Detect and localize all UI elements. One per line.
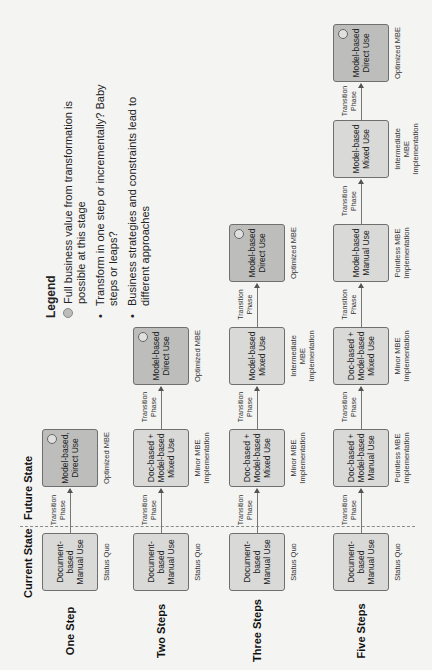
transition-phase-label: Transition Phase	[237, 490, 254, 530]
state-box-label: Document-based Manual Use	[146, 536, 176, 588]
state-box-label: Model-based Direct Use	[151, 330, 171, 382]
state-caption: Intermediate MBE Implementation	[393, 120, 420, 178]
state-box: Model-based Direct Use	[133, 327, 189, 385]
bullet-icon: •	[126, 306, 152, 318]
state-box-label: Model-based Mixed Use	[247, 330, 267, 382]
state-box: Doc-based + Model-based Mixed Use	[229, 429, 285, 487]
legend-full-value-text: Full business value from transformation …	[62, 58, 88, 304]
state-box: Model-based, Direct Use	[42, 429, 98, 487]
row-label: Two Steps	[155, 600, 167, 662]
transition-arrow	[161, 489, 162, 533]
transition-phase-label: Transition Phase	[141, 490, 158, 530]
state-caption: Optimized MBE	[393, 24, 402, 82]
state-box-label: Doc-based + Model-based Manual Use	[346, 432, 376, 484]
mbe-transformation-diagram: Current State Future State Legend Full b…	[0, 0, 432, 670]
transition-arrow	[361, 84, 362, 120]
state-box: Model-based Direct Use	[229, 224, 285, 282]
state-box-label: Model-based Direct Use	[351, 27, 371, 79]
state-box: Document-based Manual Use	[333, 533, 389, 591]
state-box-label: Model-based Direct Use	[247, 227, 267, 279]
state-caption: Status Quo	[289, 533, 298, 591]
state-caption: Pointless MBE Implementation	[393, 224, 411, 282]
transition-arrow	[361, 387, 362, 429]
state-box: Model-based Manual Use	[333, 224, 389, 282]
state-box-label: Doc-based + Model-based Mixed Use	[242, 432, 272, 484]
state-box: Document-based Manual Use	[133, 533, 189, 591]
transition-arrow	[361, 489, 362, 533]
full-value-circle-icon	[338, 29, 348, 39]
transition-arrow	[361, 180, 362, 224]
full-value-circle-icon	[63, 308, 73, 318]
state-caption: Optimized MBE	[193, 327, 202, 385]
state-box-label: Document-based Manual Use	[55, 536, 85, 588]
state-box: Document-based Manual Use	[42, 533, 98, 591]
transition-phase-label: Transition Phase	[341, 285, 358, 325]
transition-arrow	[161, 387, 162, 429]
state-box-label: Document-based Manual Use	[242, 536, 272, 588]
transition-phase-label: Transition Phase	[341, 490, 358, 530]
full-value-circle-icon	[138, 332, 148, 342]
state-box: Model-based Mixed Use	[229, 327, 285, 385]
legend: Legend Full business value from transfor…	[44, 58, 158, 318]
legend-bullet-item: • Business strategies and constraints le…	[126, 58, 152, 318]
transition-phase-label: Transition Phase	[141, 387, 158, 427]
state-box-label: Doc-based + Model-based Mixed Use	[346, 330, 376, 382]
row-label: One Step	[64, 600, 76, 662]
bullet-icon: •	[94, 306, 120, 318]
state-caption: Minor MBE Implementation	[193, 429, 211, 487]
state-caption: Status Quo	[393, 533, 402, 591]
transition-arrow	[361, 284, 362, 327]
legend-title: Legend	[44, 58, 58, 318]
state-box: Doc-based + Model-based Mixed Use	[133, 429, 189, 487]
state-box: Doc-based + Model-based Manual Use	[333, 429, 389, 487]
full-value-circle-icon	[234, 229, 244, 239]
state-caption: Optimized MBE	[289, 224, 298, 282]
state-caption: Minor MBE Implementation	[289, 429, 307, 487]
header-future-state: Future State	[22, 456, 34, 520]
transition-phase-label: Transition Phase	[237, 285, 254, 325]
transition-phase-label: Transition Phase	[237, 387, 254, 427]
transition-phase-label: Transition Phase	[341, 181, 358, 221]
state-caption: Status Quo	[193, 533, 202, 591]
state-caption: Minor MBE Implementation	[393, 327, 411, 385]
state-box-label: Doc-based + Model-based Mixed Use	[146, 432, 176, 484]
state-caption: Optimized MBE	[102, 429, 111, 487]
state-caption: Pointless MBE Implementation	[393, 429, 411, 487]
transition-arrow	[257, 387, 258, 429]
state-caption: Status Quo	[102, 533, 111, 591]
row-label: Five Steps	[355, 600, 367, 662]
legend-bullet-item: • Transform in one step or incrementally…	[94, 58, 120, 318]
header-current-state: Current State	[22, 528, 34, 598]
row-label: Three Steps	[251, 600, 263, 662]
state-box: Model-based Direct Use	[333, 24, 389, 82]
legend-bullet-text: Business strategies and constraints lead…	[126, 58, 152, 306]
state-box: Document-based Manual Use	[229, 533, 285, 591]
transition-phase-label: Transition Phase	[341, 387, 358, 427]
transition-phase-label: Transition Phase	[341, 81, 358, 121]
legend-bullet-text: Transform in one step or incrementally? …	[94, 58, 120, 306]
full-value-circle-icon	[47, 434, 57, 444]
state-box-label: Model-based Manual Use	[351, 227, 371, 279]
state-caption: Intermediate MBE Implementation	[289, 327, 316, 385]
state-box-label: Document-based Manual Use	[346, 536, 376, 588]
state-box: Doc-based + Model-based Mixed Use	[333, 327, 389, 385]
state-box-label: Model-based Mixed Use	[351, 123, 371, 175]
transition-arrow	[70, 489, 71, 533]
transition-arrow	[257, 489, 258, 533]
legend-full-value-item: Full business value from transformation …	[62, 58, 88, 318]
transition-arrow	[257, 284, 258, 327]
state-box-label: Model-based, Direct Use	[60, 432, 80, 484]
transition-phase-label: Transition Phase	[50, 490, 67, 530]
state-box: Model-based Mixed Use	[333, 120, 389, 178]
